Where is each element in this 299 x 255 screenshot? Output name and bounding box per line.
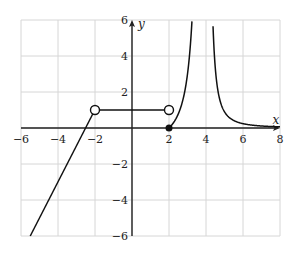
x-tick-label: −6 — [13, 133, 29, 146]
function-graph: −6−4−22468642−2−4−6 x y — [0, 0, 299, 255]
linear-segment — [30, 114, 93, 237]
open-circle-marker — [165, 106, 174, 115]
rational-curve-right — [213, 26, 280, 127]
axes — [21, 20, 280, 236]
open-circle-marker — [91, 106, 100, 115]
x-tick-label: 2 — [166, 133, 173, 146]
x-tick-label: −4 — [50, 133, 66, 146]
y-tick-label: −4 — [112, 194, 128, 207]
y-tick-label: −2 — [112, 158, 128, 171]
y-tick-label: 4 — [121, 50, 128, 63]
y-tick-label: −6 — [112, 230, 128, 243]
y-axis-label: y — [137, 17, 145, 31]
x-tick-label: 8 — [277, 133, 284, 146]
y-tick-label: 6 — [121, 14, 128, 27]
y-tick-label: 2 — [121, 86, 128, 99]
x-axis-label: x — [273, 113, 280, 127]
filled-point-marker — [166, 125, 173, 132]
x-tick-label: −2 — [87, 133, 103, 146]
x-tick-label: 6 — [240, 133, 247, 146]
x-tick-label: 4 — [203, 133, 210, 146]
